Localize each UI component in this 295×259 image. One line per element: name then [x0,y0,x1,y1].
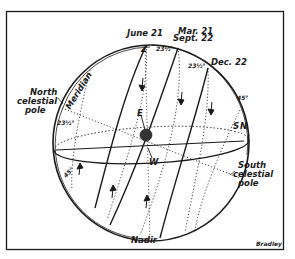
label-june: June 21 [125,28,163,38]
label-south-point: S [233,121,239,131]
dec-path-back [185,68,208,232]
celestial-sphere-figure: June 21 Z Mar. 21 Sept. 22 23½° 23½° Dec… [0,0,295,259]
label-45-right: 45° [237,94,248,101]
label-dec: Dec. 22 [211,57,247,67]
label-angle-c: 23½° [57,119,75,126]
label-north-pole-3: pole [24,105,46,115]
label-sept: Sept. 22 [173,33,213,43]
label-north-point: N [240,121,247,131]
label-angle-a: 23½° [156,45,174,52]
label-45-left: 45° [62,166,75,179]
polar-axis [62,108,240,178]
credit-bradley: Bradley [256,240,283,248]
label-east: E [137,108,143,118]
label-south-pole-3: pole [237,178,259,188]
label-zenith: Z [140,44,148,54]
north-south-line [56,141,244,150]
june-path-front [95,46,146,208]
horizon-back [54,126,249,150]
label-west: W [149,157,159,167]
earth-icon [140,129,152,141]
label-nadir: Nadir [131,235,158,245]
label-angle-b: 23½° [188,62,206,69]
